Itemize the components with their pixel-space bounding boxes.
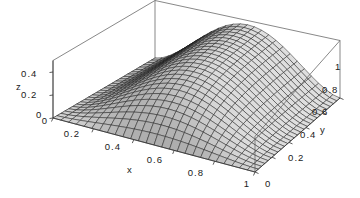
z-tick-label: 0 [36, 109, 42, 120]
x-tick-label: 0.6 [147, 154, 164, 165]
x-tick-label: 0 [42, 115, 48, 126]
y-tick-label: 1 [335, 61, 341, 72]
y-tick-label: 0.4 [300, 129, 317, 140]
surface-plot-figure: 00.20.40.60.81 00.20.40.60.81 00.20.4 x … [0, 0, 360, 198]
x-axis-title: x [127, 164, 132, 175]
x-tick-label: 0.8 [188, 167, 205, 178]
x-tick-label: 1 [244, 178, 250, 189]
y-tick-label: 0 [265, 178, 271, 189]
z-tick-label: 0.2 [21, 89, 38, 100]
y-tick-label: 0.8 [322, 84, 339, 95]
plot-canvas: 00.20.40.60.81 00.20.40.60.81 00.20.4 x … [0, 0, 360, 198]
x-tick-label: 0.4 [105, 141, 122, 152]
z-tick-label: 0.4 [21, 68, 38, 79]
y-tick-label: 0.6 [312, 106, 329, 117]
x-tick-label: 0.2 [64, 128, 81, 139]
y-axis-title: y [320, 124, 325, 135]
y-tick-label: 0.2 [288, 152, 305, 163]
z-axis-title: z [16, 81, 21, 92]
